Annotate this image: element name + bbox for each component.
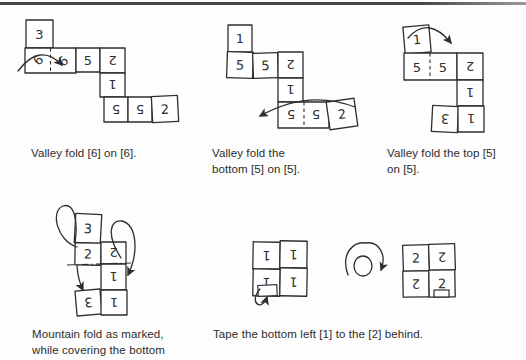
fold-cell: 1 [458, 106, 484, 132]
cell-label: 5 [312, 107, 320, 122]
fold-cell: 2 [429, 244, 456, 271]
fold-cell: 1 [280, 268, 307, 296]
panel-step3: 1552131 [395, 12, 520, 147]
panel-step5: 1111 [245, 228, 395, 313]
fold-cell: 1 [101, 264, 126, 290]
svg-text:2: 2 [160, 101, 169, 116]
fold-cell: 1 [253, 242, 280, 269]
fold-cell: 1 [457, 80, 483, 106]
svg-text:2: 2 [286, 57, 294, 72]
svg-text:5: 5 [287, 107, 295, 122]
fold-cell: 1 [280, 241, 307, 268]
svg-text:1: 1 [286, 82, 294, 97]
panel-step1: 366521552 [15, 10, 210, 140]
fold-cell: 5 [253, 53, 279, 79]
fold-cell: 2 [100, 48, 125, 73]
fold-cell: 5 [128, 97, 152, 122]
fold-cell: 2 [278, 52, 303, 78]
caption-step3: Valley fold the top [5] on [5]. [387, 146, 525, 177]
svg-text:1: 1 [466, 85, 474, 100]
svg-text:1: 1 [412, 32, 422, 48]
rotate-symbol-circle [354, 256, 372, 276]
svg-text:2: 2 [109, 245, 117, 260]
fold-cell: 2 [75, 243, 101, 265]
fold-cell: 5 [104, 97, 128, 122]
fold-cell: 1 [101, 290, 127, 315]
fold-cell: 3 [74, 213, 101, 243]
svg-text:2: 2 [108, 53, 116, 68]
svg-text:5: 5 [236, 58, 245, 73]
svg-text:1: 1 [467, 111, 475, 126]
fold-cell: 3 [75, 289, 102, 316]
svg-text:3: 3 [83, 221, 92, 236]
svg-text:2: 2 [438, 249, 447, 264]
svg-text:3: 3 [35, 27, 43, 42]
page: 366521552 15521552 1552131 322131 1111 2… [0, 0, 526, 360]
svg-text:5: 5 [261, 58, 270, 73]
svg-text:1: 1 [289, 274, 298, 289]
svg-text:2: 2 [412, 251, 421, 266]
svg-text:2: 2 [84, 247, 93, 262]
cell-label: 5 [287, 107, 295, 122]
svg-text:5: 5 [439, 60, 447, 75]
svg-text:3: 3 [84, 294, 94, 310]
panel-step2: 15521552 [220, 15, 380, 145]
svg-text:5: 5 [413, 60, 421, 75]
svg-text:1: 1 [289, 247, 298, 262]
svg-text:1: 1 [236, 31, 244, 46]
svg-text:1: 1 [109, 269, 117, 284]
svg-text:5: 5 [136, 102, 144, 117]
fold-cell: 1 [403, 25, 431, 54]
fold-cell: 2 [151, 95, 178, 122]
svg-text:5: 5 [112, 102, 120, 117]
fold-arrow [77, 266, 83, 290]
fold-cell: 2 [403, 271, 429, 297]
fold-cell: 1 [228, 25, 252, 52]
fold-cell: 3 [431, 105, 458, 132]
fold-cell: 2 [403, 245, 430, 272]
fold-cell: 1 [100, 73, 125, 97]
caption-step4: Mountain fold as marked, while covering … [32, 327, 227, 358]
cell-label: 5 [439, 60, 447, 75]
fold-cell: 5 [76, 48, 100, 72]
svg-text:2: 2 [466, 59, 474, 74]
tape [258, 285, 278, 297]
svg-text:1: 1 [110, 295, 118, 310]
flip-over-arrow [346, 243, 383, 275]
fold-cell: 3 [26, 20, 53, 48]
fold-cell: 5 [227, 52, 254, 79]
fold-cell: 2 [457, 53, 483, 80]
svg-text:2: 2 [438, 276, 447, 291]
caption-step1: Valley fold [6] on [6]. [31, 146, 206, 162]
svg-text:5: 5 [84, 53, 92, 68]
panel-step6: 2222 [398, 236, 473, 308]
svg-text:5: 5 [312, 107, 320, 122]
caption-step2: Valley fold the bottom [5] on [5]. [212, 146, 377, 177]
svg-text:3: 3 [440, 111, 449, 126]
tape [434, 290, 449, 297]
fold-cell: 1 [278, 78, 303, 102]
panel-step4: 322131 [45, 195, 175, 320]
caption-step56: Tape the bottom left [1] to the [2] behi… [213, 327, 518, 343]
svg-text:1: 1 [262, 248, 271, 263]
top-rule [0, 2, 526, 5]
svg-text:1: 1 [108, 77, 116, 92]
cell-label: 5 [413, 60, 421, 75]
svg-text:2: 2 [412, 276, 421, 291]
